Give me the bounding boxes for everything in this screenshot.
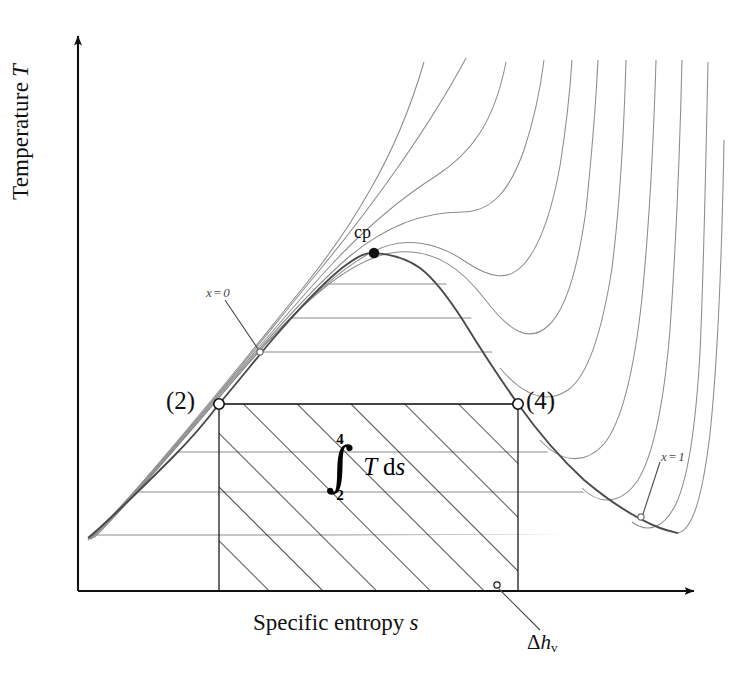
integral-integrand: Tds [354, 453, 405, 481]
leader-line-x0 [225, 300, 258, 349]
quality-one-marker [638, 514, 644, 520]
ts-diagram-figure: TemperatureT Specific entropys cp (2) (4… [0, 0, 732, 682]
quality-zero-value: 0 [223, 285, 230, 300]
ts-diagram-canvas [0, 0, 732, 682]
x-axis-label-text: Specific entropy [253, 610, 404, 635]
integral-lower-limit: 2 [336, 488, 344, 503]
leader-line-x1 [643, 462, 660, 514]
x-axis-label-variable: s [404, 610, 418, 635]
isobar-7 [500, 60, 626, 397]
delta-symbol: Δ [527, 630, 541, 654]
quality-one-value: 1 [678, 449, 685, 464]
isobar-9 [582, 60, 682, 500]
enthalpy-of-vaporization-label: Δhv [527, 630, 558, 656]
x-axis-label: Specific entropys [253, 610, 418, 636]
y-axis-label-text: Temperature [8, 82, 33, 200]
state-2-marker[interactable] [214, 399, 224, 409]
integral-symbol-stack: 4 ∫ 2 [326, 432, 354, 503]
enthalpy-marker [494, 582, 500, 588]
state-4-label: (4) [526, 387, 555, 415]
quality-one-label: x=1 [661, 449, 685, 465]
quality-one-equals: = [667, 449, 678, 464]
critical-point-marker [369, 248, 379, 258]
integral-annotation: 4 ∫ 2 Tds [326, 432, 405, 503]
quality-one-variable: x [661, 449, 667, 464]
integrand-temperature: T [363, 453, 377, 480]
enthalpy-symbol: h [541, 630, 552, 654]
state-2-label: (2) [166, 387, 195, 415]
enthalpy-subscript: v [551, 640, 558, 655]
state-4-marker[interactable] [513, 399, 523, 409]
integrand-entropy: s [396, 453, 406, 480]
critical-point-label: cp [354, 222, 371, 243]
y-axis-label: TemperatureT [8, 64, 34, 200]
quality-zero-variable: x [206, 285, 212, 300]
integral-sign: ∫ [326, 447, 354, 488]
quality-zero-label: x=0 [206, 285, 230, 301]
y-axis-label-variable: T [8, 64, 33, 82]
isobar-8 [540, 60, 656, 459]
quality-zero-marker [257, 349, 263, 355]
integrand-differential: d [377, 453, 396, 480]
quality-zero-equals: = [212, 285, 223, 300]
leader-line-dhv [499, 589, 540, 630]
